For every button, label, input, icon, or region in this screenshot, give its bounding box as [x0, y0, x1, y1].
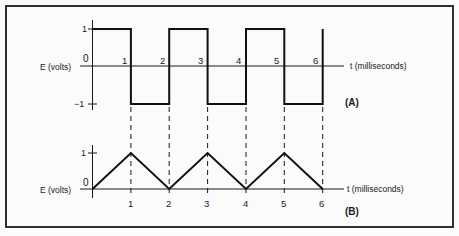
panel-a: 1 −1 0 E (volts) 1 2 3 4 5 6 t (millisec…	[40, 20, 407, 110]
dashed-connectors	[131, 107, 323, 196]
b-xtick-label-1: 1	[128, 198, 133, 209]
a-ytick-label-neg1: −1	[74, 99, 84, 109]
b-ytick-label-1: 1	[81, 148, 86, 158]
b-xtick-label-2: 2	[166, 198, 171, 209]
a-xtick-label-3: 3	[198, 55, 203, 66]
waveform-diagram: 1 −1 0 E (volts) 1 2 3 4 5 6 t (millisec…	[0, 0, 459, 236]
a-xtick-label-5: 5	[274, 55, 279, 66]
b-xtick-label-5: 5	[281, 198, 286, 209]
panel-b: 1 0 E (volts) 1 2 3 4 5 6 t (millisecond…	[40, 145, 404, 217]
a-x-axis-label: t (milliseconds)	[350, 61, 407, 71]
a-xtick-label-6: 6	[313, 55, 318, 66]
b-x-axis-label: t (milliseconds)	[347, 184, 404, 194]
b-xtick-label-4: 4	[243, 198, 248, 209]
b-y-axis-label: E (volts)	[40, 185, 71, 195]
b-xtick-label-6: 6	[319, 198, 324, 209]
a-xtick-label-4: 4	[236, 55, 241, 66]
b-origin-label: 0	[83, 177, 89, 188]
a-origin-label: 0	[83, 53, 89, 64]
a-xtick-label-1: 1	[122, 55, 127, 66]
b-xtick-label-3: 3	[204, 198, 209, 209]
panel-a-label: (A)	[345, 97, 359, 108]
a-ytick-label-1: 1	[82, 24, 87, 34]
a-y-axis-label: E (volts)	[40, 62, 71, 72]
a-xtick-label-2: 2	[160, 55, 165, 66]
panel-b-label: (B)	[345, 206, 359, 217]
